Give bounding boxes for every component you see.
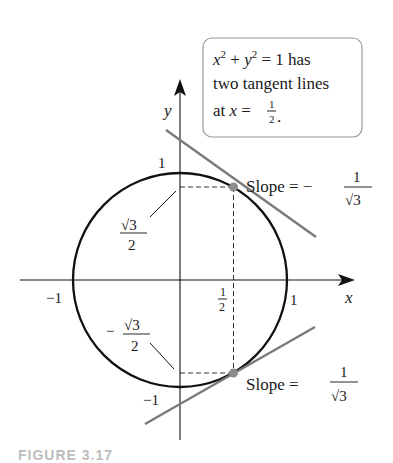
callout-line3: at x = [213, 101, 251, 120]
callout-line2: two tangent lines [213, 74, 329, 93]
sqrt3-over-2-num: √3 [121, 217, 137, 233]
callout-period: . [277, 107, 281, 126]
neg-sqrt3-sign: − [106, 323, 114, 339]
neg-sqrt3-over-2-num: √3 [124, 317, 140, 333]
y-tick-1: 1 [158, 155, 166, 171]
slope-bottom-den: √3 [331, 388, 347, 404]
neg-sqrt3-over-2-den: 2 [131, 338, 139, 354]
sqrt3-over-2-den: 2 [128, 237, 136, 253]
slope-bottom-label: Slope = [246, 375, 299, 394]
leader-line-bottom [150, 343, 174, 369]
slope-top-label: Slope = − [246, 177, 312, 196]
slope-bottom-num: 1 [340, 364, 348, 380]
x-axis-label: x [344, 288, 353, 307]
x-tick-1: 1 [290, 292, 298, 308]
x-tick-neg1: −1 [46, 290, 62, 306]
slope-top-den: √3 [345, 192, 361, 208]
figure-caption: FIGURE 3.17 [18, 447, 113, 463]
slope-top-num: 1 [353, 169, 361, 185]
tangent-point-bottom [229, 369, 238, 378]
callout-frac-den: 2 [269, 113, 275, 125]
x-tick-half-num: 1 [220, 285, 226, 299]
callout-line1: x2 + y2 = 1 has [212, 48, 311, 69]
y-axis-label: y [162, 101, 172, 120]
y-tick-neg1: −1 [143, 392, 159, 408]
callout-frac-num: 1 [269, 98, 275, 110]
x-tick-half-den: 2 [219, 300, 225, 314]
tangent-point-top [229, 183, 238, 192]
leader-line-top [150, 191, 176, 217]
